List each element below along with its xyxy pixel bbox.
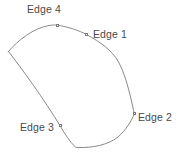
edge-label-4: Edge 4 (27, 4, 61, 15)
vertex-marker-edge-4[interactable] (56, 24, 59, 27)
vertex-marker-edge-2[interactable] (133, 112, 136, 115)
shape-diagram-canvas: Edge 4 Edge 1 Edge 2 Edge 3 (0, 0, 188, 156)
edge-label-1: Edge 1 (93, 29, 127, 40)
edge-label-2: Edge 2 (138, 112, 172, 123)
edge-label-3: Edge 3 (20, 122, 54, 133)
vertex-marker-edge-1[interactable] (85, 33, 88, 36)
vertex-marker-edge-3[interactable] (59, 124, 62, 127)
